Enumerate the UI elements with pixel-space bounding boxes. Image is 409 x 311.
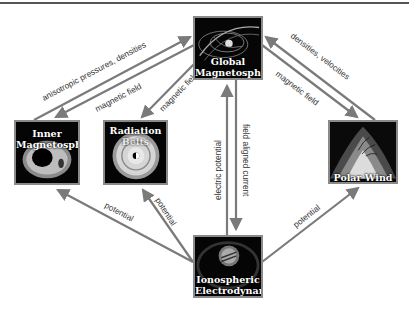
- node-ionospheric-electrodynamics: Ionospheric Electrodynamics: [193, 235, 263, 298]
- node-label: Magnetosphere: [195, 67, 261, 78]
- node-label: Belts: [105, 136, 166, 147]
- edge-label: electric potential: [213, 140, 223, 200]
- node-label: Magnetosphere: [16, 139, 78, 150]
- node-radiation-belts: Radiation Belts: [103, 120, 168, 185]
- node-label: Ionospheric: [195, 274, 261, 285]
- node-label: Inner: [16, 128, 78, 139]
- edge-label: potential: [291, 202, 322, 229]
- edge-label: densities, velocities: [289, 31, 352, 82]
- node-inner-magnetosphere: Inner Magnetosphere: [14, 120, 80, 185]
- edge-label: field aligned current: [241, 124, 251, 197]
- edge-iono-to-polar: [262, 188, 358, 262]
- node-label: Polar Wind: [330, 172, 396, 183]
- node-global-magnetosphere: Global Magnetosphere: [193, 16, 263, 80]
- edge-iono-to-radiation: [143, 190, 193, 262]
- edge-global-to-polar: [262, 45, 357, 117]
- edge-iono-to-inner: [58, 190, 193, 262]
- node-label: Global: [195, 56, 261, 67]
- node-label: Radiation: [105, 125, 166, 136]
- node-label: Electrodynamics: [195, 285, 261, 296]
- node-polar-wind: Polar Wind: [328, 120, 398, 184]
- edge-label: potential: [103, 200, 136, 224]
